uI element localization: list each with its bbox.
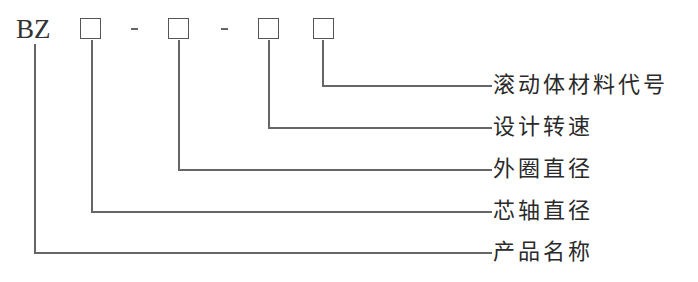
- material-code-box: [313, 18, 334, 39]
- leader-horizontal-material: [322, 85, 492, 87]
- leader-horizontal-speed: [268, 127, 492, 129]
- leader-vertical-product: [34, 44, 36, 253]
- separator-dash-2: [221, 28, 228, 30]
- label-mandrel-diameter: 芯轴直径: [493, 198, 593, 224]
- mandrel-diameter-box: [80, 18, 101, 39]
- product-prefix: BZ: [16, 14, 51, 44]
- leader-vertical-mandrel: [91, 40, 93, 212]
- design-speed-box: [258, 18, 279, 39]
- outer-ring-diameter-box: [168, 18, 189, 39]
- leader-vertical-outer: [178, 40, 180, 170]
- separator-dash-1: [131, 28, 138, 30]
- label-rolling-element-material-code: 滚动体材料代号: [493, 72, 668, 98]
- label-design-speed: 设计转速: [493, 114, 593, 140]
- label-product-name: 产品名称: [493, 239, 593, 265]
- label-outer-ring-diameter: 外圈直径: [493, 156, 593, 182]
- leader-horizontal-mandrel: [91, 211, 492, 213]
- leader-horizontal-product: [34, 252, 492, 254]
- leader-vertical-material: [322, 40, 324, 86]
- leader-vertical-speed: [268, 40, 270, 128]
- leader-horizontal-outer: [178, 169, 492, 171]
